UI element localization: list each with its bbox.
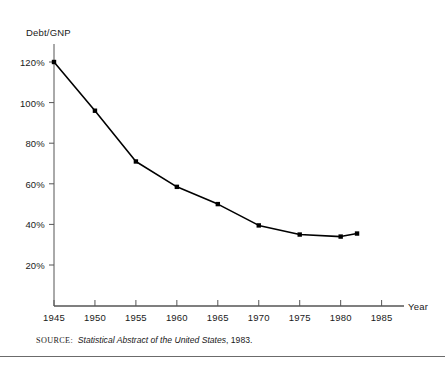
x-axis-tick-label: 1975 [289, 312, 311, 323]
source-suffix: , 1983. [226, 335, 252, 345]
x-axis-tick-label: 1960 [166, 312, 188, 323]
y-axis-tick-label: 120% [0, 57, 45, 68]
x-axis-tick-label: 1970 [248, 312, 270, 323]
chart-series-markers [52, 60, 359, 239]
y-axis-title: Debt/GNP [26, 27, 71, 38]
footer-rule [0, 356, 445, 357]
x-axis-title: Year [408, 301, 428, 312]
chart-series-line [54, 62, 357, 237]
source-title: Statistical Abstract of the United State… [78, 335, 226, 345]
y-axis-tick-label: 20% [0, 260, 45, 271]
y-axis-tick-label: 100% [0, 97, 45, 108]
y-axis-tick-label: 80% [0, 138, 45, 149]
chart-axes [49, 44, 404, 306]
y-axis-tick-label: 60% [0, 178, 45, 189]
figure-debt-gnp-chart: Debt/GNP Year 20%40%60%80%100%120% 19451… [0, 0, 445, 367]
x-axis-tick-label: 1945 [43, 312, 65, 323]
x-axis-tick-label: 1985 [371, 312, 393, 323]
y-axis-tick-label: 40% [0, 219, 45, 230]
x-axis-tick-label: 1965 [207, 312, 229, 323]
source-note: SOURCE: Statistical Abstract of the Unit… [36, 335, 252, 345]
x-axis-tick-label: 1950 [84, 312, 106, 323]
x-axis-tick-label: 1955 [125, 312, 147, 323]
source-kicker: SOURCE: [36, 336, 73, 345]
x-axis-tick-label: 1980 [330, 312, 352, 323]
